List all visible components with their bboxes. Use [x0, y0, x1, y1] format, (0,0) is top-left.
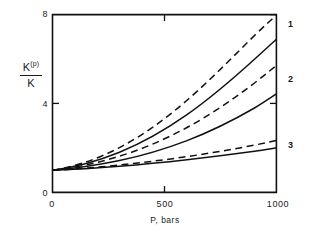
- curve-group-2: [53, 65, 277, 170]
- tick-marks: [52, 15, 277, 192]
- curve-2-dashed: [53, 65, 277, 170]
- curve-2-solid: [53, 94, 277, 170]
- curve-1-solid: [53, 39, 277, 170]
- curve-1-dashed: [53, 15, 277, 170]
- plot-svg: [0, 0, 310, 237]
- curve-group-1: [53, 15, 277, 170]
- figure-root: K(p) K 8 4 0 0 500 1000 P, bars 1 2 3: [0, 0, 310, 237]
